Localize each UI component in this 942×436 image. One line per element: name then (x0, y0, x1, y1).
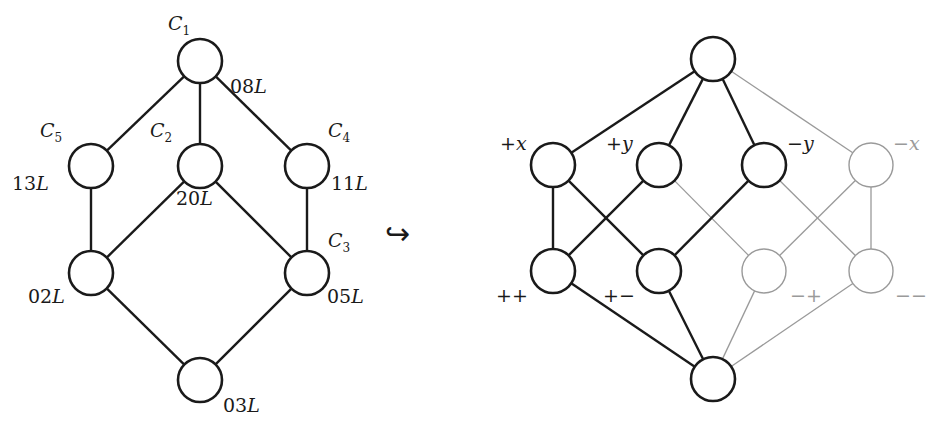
edge-C1-C5 (107, 76, 184, 150)
edge-top-py (669, 79, 703, 146)
node-name-label: C3 (328, 229, 350, 255)
node-C5 (69, 144, 113, 188)
node-top (691, 37, 735, 81)
node-capacity-label: 02L (28, 285, 65, 307)
edge-top-my (723, 79, 755, 145)
lattice-embedding-diagram: C108LC513LC220LC411L02LC305L03L ↪ +x+y−y… (0, 0, 942, 436)
direction-label: −+ (790, 284, 822, 306)
node-pp (531, 249, 575, 293)
node-name-label: C4 (328, 119, 351, 145)
node-bot (691, 357, 735, 401)
edge-C2-C3 (216, 182, 292, 258)
node-C2 (178, 144, 222, 188)
direction-label: −x (893, 132, 920, 154)
node-C3 (285, 251, 329, 295)
node-C1 (178, 39, 222, 83)
node-name-label: C1 (168, 12, 190, 38)
edge-pm-bot (669, 291, 703, 360)
node-py (637, 143, 681, 187)
node-pm (637, 249, 681, 293)
direction-label: ++ (496, 284, 528, 306)
node-C6 (69, 251, 113, 295)
node-capacity-label: 13L (12, 172, 49, 194)
node-C4 (285, 144, 329, 188)
direction-label: −− (895, 284, 927, 306)
node-capacity-label: 03L (223, 394, 260, 416)
edge-mp-bot (722, 291, 754, 359)
direction-label: −y (787, 132, 814, 154)
edge-C6-C7 (107, 288, 185, 364)
node-mp (742, 249, 786, 293)
right-graph-edges (553, 71, 871, 367)
direction-label: +y (606, 132, 633, 154)
hook-arrow-icon: ↪ (385, 216, 410, 251)
node-capacity-label: 05L (327, 285, 364, 307)
node-name-label: C5 (40, 119, 62, 145)
left-graph-edges (91, 76, 307, 364)
node-px (531, 143, 575, 187)
node-mm (849, 249, 893, 293)
node-name-label: C2 (150, 119, 172, 145)
direction-label: +x (500, 132, 527, 154)
node-capacity-label: 20L (176, 187, 213, 209)
direction-label: +− (603, 284, 635, 306)
node-C7 (178, 358, 222, 402)
node-mx (849, 143, 893, 187)
node-my (742, 143, 786, 187)
edge-C2-C6 (107, 181, 185, 257)
node-capacity-label: 08L (230, 75, 267, 97)
edge-C3-C7 (216, 289, 292, 365)
node-capacity-label: 11L (331, 172, 368, 194)
edge-top-px (571, 71, 694, 153)
